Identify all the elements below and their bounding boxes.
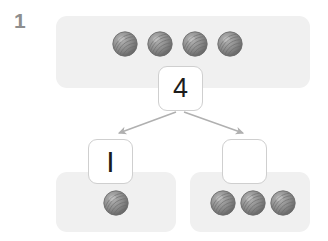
counter-icon bbox=[103, 190, 129, 216]
counter-icon bbox=[182, 31, 208, 57]
worksheet-canvas: 1 4 I bbox=[0, 0, 328, 241]
part-left-number-box[interactable]: I bbox=[88, 139, 133, 184]
counter-icon bbox=[217, 31, 243, 57]
counter-icon bbox=[210, 190, 236, 216]
whole-number-box[interactable]: 4 bbox=[158, 66, 203, 111]
counter-icon bbox=[270, 190, 296, 216]
problem-number: 1 bbox=[14, 10, 26, 31]
whole-number-value: 4 bbox=[173, 75, 188, 102]
part-right-number-box[interactable] bbox=[222, 139, 267, 184]
counter-icon bbox=[147, 31, 173, 57]
arrow-to-right-part bbox=[184, 112, 243, 133]
part-left-number-value: I bbox=[106, 147, 114, 177]
counter-icon bbox=[112, 31, 138, 57]
counter-icon bbox=[240, 190, 266, 216]
arrow-to-left-part bbox=[119, 112, 176, 133]
